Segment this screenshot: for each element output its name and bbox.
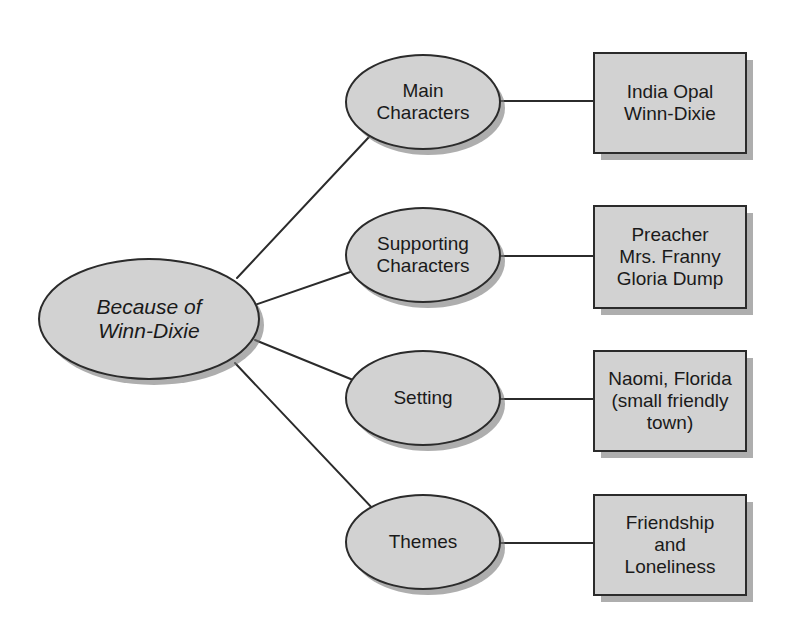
detail-box-label-supporting-characters: Preacher Mrs. Franny Gloria Dump xyxy=(617,224,724,290)
edge-center-to-setting xyxy=(255,340,358,382)
branch-node-label-main-characters: Main Characters xyxy=(377,80,470,124)
central-node-because-of-winn-dixie[interactable]: Because of Winn-Dixie xyxy=(38,258,260,380)
detail-box-themes[interactable]: Friendship and Loneliness xyxy=(593,494,747,596)
detail-box-label-setting: Naomi, Florida (small friendly town) xyxy=(608,368,732,434)
detail-box-supporting-characters[interactable]: Preacher Mrs. Franny Gloria Dump xyxy=(593,205,747,309)
branch-node-main-characters[interactable]: Main Characters xyxy=(345,54,501,150)
branch-node-supporting-characters[interactable]: Supporting Characters xyxy=(345,207,501,303)
detail-box-label-themes: Friendship and Loneliness xyxy=(625,512,716,578)
detail-box-label-main-characters: India Opal Winn-Dixie xyxy=(624,81,716,125)
edge-center-to-supporting-characters xyxy=(252,270,356,306)
detail-box-main-characters[interactable]: India Opal Winn-Dixie xyxy=(593,52,747,154)
branch-node-label-supporting-characters: Supporting Characters xyxy=(377,233,470,277)
detail-box-setting[interactable]: Naomi, Florida (small friendly town) xyxy=(593,350,747,452)
branch-node-setting[interactable]: Setting xyxy=(345,350,501,446)
branch-node-label-setting: Setting xyxy=(393,387,452,409)
central-node-label: Because of Winn-Dixie xyxy=(96,295,201,344)
concept-map-canvas: Because of Winn-Dixie Main Characters Su… xyxy=(0,0,790,640)
branch-node-themes[interactable]: Themes xyxy=(345,494,501,590)
branch-node-label-themes: Themes xyxy=(389,531,458,553)
